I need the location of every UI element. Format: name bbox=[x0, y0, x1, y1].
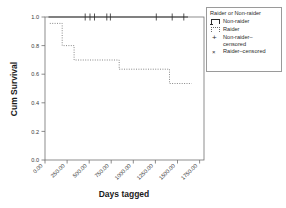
y-tick-label: 0.4 bbox=[31, 100, 39, 106]
legend-key-plus-marker-icon: + bbox=[210, 34, 223, 41]
y-tick-label: 0.8 bbox=[31, 43, 39, 49]
x-axis-title: Days tagged bbox=[99, 189, 150, 199]
legend: Raider or Non-raider Non-raider Raider +… bbox=[206, 7, 282, 72]
y-tick-label: 1.0 bbox=[31, 14, 39, 20]
plot-frame bbox=[45, 17, 204, 160]
legend-entry-raider-censored: × Raider–censored bbox=[210, 48, 278, 55]
survival-chart-figure: 1.0 0.8 0.6 0.4 0.2 0.0 Cum Survival 0.0… bbox=[0, 0, 286, 208]
x-tick-labels: 0.00 250.00 500.00 750.00 1000.00 1250.0… bbox=[32, 162, 199, 181]
x-tick-label: 1000.00 bbox=[113, 162, 132, 181]
legend-label: Non-raider bbox=[223, 18, 249, 25]
legend-key-dotted-step-icon bbox=[210, 26, 223, 33]
legend-label: Raider bbox=[223, 26, 239, 33]
y-axis-title: Cum Survival bbox=[9, 62, 19, 116]
x-tick-label: 1750.00 bbox=[180, 162, 199, 181]
legend-key-cross-marker-icon: × bbox=[210, 48, 223, 55]
y-tick-label: 0.6 bbox=[31, 71, 39, 77]
legend-label: Raider–censored bbox=[223, 48, 266, 55]
y-tick-label: 0.2 bbox=[31, 129, 39, 135]
x-tick-label: 0.00 bbox=[32, 162, 44, 174]
legend-key-solid-step-icon bbox=[210, 18, 223, 25]
legend-label: Non-raider– censored bbox=[223, 34, 253, 47]
legend-entry-non-raider-censored: + Non-raider– censored bbox=[210, 34, 278, 47]
legend-title: Raider or Non-raider bbox=[210, 10, 278, 17]
y-tick-labels: 1.0 0.8 0.6 0.4 0.2 0.0 bbox=[31, 14, 39, 163]
x-tick-label: 250.00 bbox=[49, 162, 65, 178]
series-raider bbox=[50, 23, 192, 83]
x-axis-ticks bbox=[45, 160, 200, 164]
x-tick-label: 1250.00 bbox=[136, 162, 155, 181]
x-tick-label: 1500.00 bbox=[158, 162, 177, 181]
y-tick-label: 0.0 bbox=[31, 157, 39, 163]
x-tick-label: 500.00 bbox=[72, 162, 88, 178]
legend-entry-raider: Raider bbox=[210, 26, 278, 33]
y-axis-ticks bbox=[42, 17, 46, 160]
x-tick-label: 750.00 bbox=[94, 162, 110, 178]
legend-entry-non-raider: Non-raider bbox=[210, 18, 278, 25]
